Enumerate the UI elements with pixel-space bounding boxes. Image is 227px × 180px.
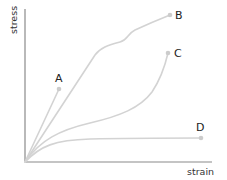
label-b: B (175, 9, 183, 22)
endpoint-c (166, 51, 171, 56)
label-a: A (55, 72, 63, 85)
series-a: A (25, 72, 63, 162)
curve-d (25, 138, 201, 162)
label-c: C (174, 47, 182, 60)
series-d: D (25, 121, 204, 162)
endpoint-d (199, 136, 204, 141)
endpoint-a (57, 87, 62, 92)
label-d: D (196, 121, 204, 134)
y-axis-label: stress (8, 6, 19, 34)
curve-a (25, 89, 59, 162)
x-axis-label: strain (187, 166, 214, 177)
stress-strain-chart: stress strain A B C D (0, 0, 227, 180)
endpoint-b (168, 13, 173, 18)
